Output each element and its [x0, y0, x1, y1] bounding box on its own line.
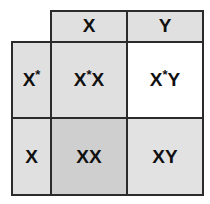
grid-line-body-top — [11, 41, 204, 43]
grid-line-bottom — [11, 194, 204, 196]
row-allele-x: X — [25, 146, 38, 168]
grid-line-middle-horizontal — [11, 117, 204, 119]
header-allele-y: Y — [159, 15, 172, 37]
genotype-xstar-x: X*X — [74, 69, 104, 91]
grid-line-right — [202, 10, 204, 196]
grid-line-col1 — [50, 10, 52, 196]
header-cell-x: X — [51, 10, 127, 42]
grid-line-middle-vertical — [126, 10, 128, 196]
genotype-xstar-y: X*Y — [150, 69, 180, 91]
cell-xstar-x: X*X — [51, 42, 127, 118]
header-cell-y: Y — [127, 10, 203, 42]
row-header-x: X — [12, 118, 51, 195]
genotype-x-y: XY — [152, 146, 177, 168]
row-header-x-star: X* — [12, 42, 51, 118]
asterisk-mark: * — [35, 67, 40, 82]
cell-x-x: XX — [51, 118, 127, 195]
cell-x-y: XY — [127, 118, 203, 195]
row-allele-x-star: X* — [23, 69, 41, 91]
grid-line-left — [11, 41, 13, 196]
header-allele-x: X — [83, 15, 96, 37]
cell-xstar-y: X*Y — [127, 42, 203, 118]
genotype-x-x: XX — [76, 146, 101, 168]
